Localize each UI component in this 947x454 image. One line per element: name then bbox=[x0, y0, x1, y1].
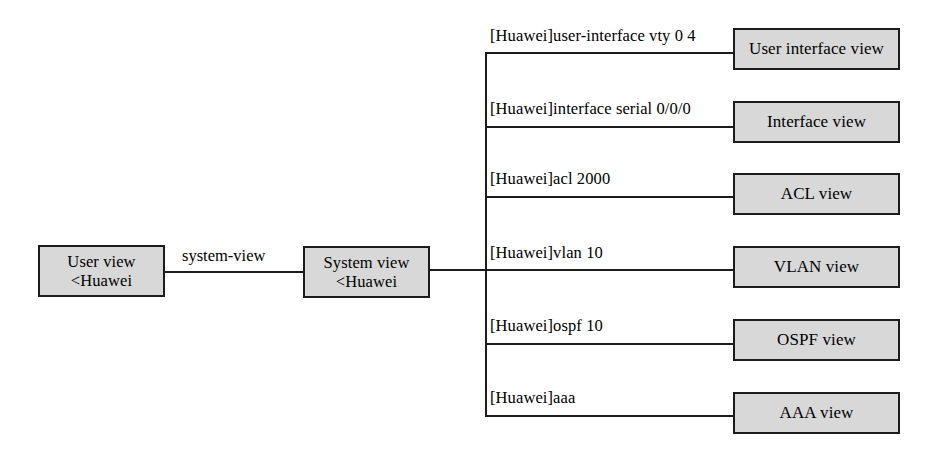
node-system-view: System view <Huawei bbox=[303, 246, 430, 298]
node-aaa-view: AAA view bbox=[733, 392, 900, 434]
node-user-view: User view <Huawei bbox=[38, 245, 165, 297]
branch-line-acl bbox=[485, 196, 735, 198]
node-ospf-view: OSPF view bbox=[733, 319, 900, 361]
node-interface-view: Interface view bbox=[733, 101, 900, 143]
command-label-user-interface: [Huawei]user-interface vty 0 4 bbox=[490, 26, 696, 46]
branch-line-ospf bbox=[485, 343, 735, 345]
node-acl-view: ACL view bbox=[733, 173, 900, 215]
branch-line-user-interface bbox=[485, 52, 735, 54]
command-label-interface: [Huawei]interface serial 0/0/0 bbox=[490, 99, 691, 119]
branch-line-interface bbox=[485, 126, 735, 128]
connector-system-to-trunk bbox=[428, 269, 487, 271]
command-label-ospf: [Huawei]ospf 10 bbox=[490, 316, 603, 336]
branch-line-aaa bbox=[485, 415, 735, 417]
diagram-canvas: User view <Huawei system-view System vie… bbox=[0, 0, 947, 454]
node-user-interface-view: User interface view bbox=[733, 28, 900, 70]
edge-label-system-view: system-view bbox=[182, 246, 265, 266]
command-label-acl: [Huawei]acl 2000 bbox=[490, 169, 610, 189]
node-vlan-view: VLAN view bbox=[733, 246, 900, 288]
command-label-aaa: [Huawei]aaa bbox=[490, 388, 575, 408]
branch-trunk-line bbox=[485, 52, 487, 417]
connector-user-to-system bbox=[165, 271, 303, 273]
branch-line-vlan bbox=[485, 269, 735, 271]
command-label-vlan: [Huawei]vlan 10 bbox=[490, 243, 603, 263]
